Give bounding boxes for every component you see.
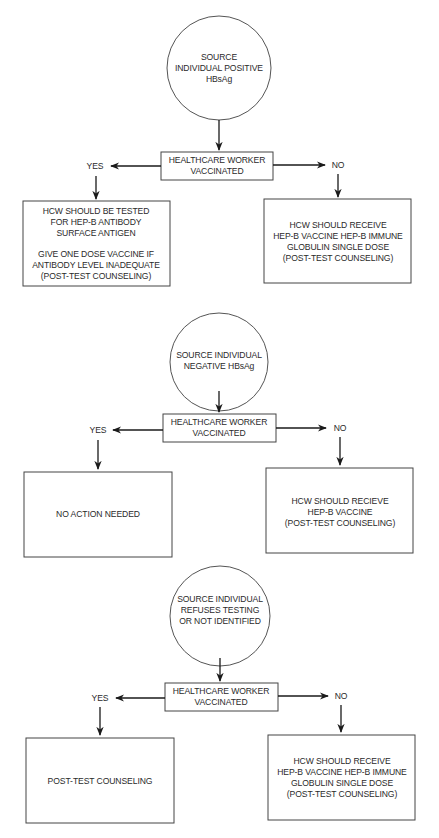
outcome-text-line: HCW SHOULD RECEIVE [289, 220, 386, 230]
flow-source-negative: SOURCE INDIVIDUAL NEGATIVE HBsAg HEALTHC… [24, 313, 413, 557]
outcome-text-line: ANTIBODY LEVEL INADEQUATE [32, 260, 160, 270]
outcome-text-line: POST-TEST COUNSELING [48, 776, 153, 786]
no-label: NO [334, 423, 347, 433]
yes-label: YES [90, 425, 107, 435]
flowchart-svg: SOURCE INDIVIDUAL POSITIVE HBsAg HEALTHC… [0, 0, 439, 838]
decision-text-line: HEALTHCARE WORKER [173, 686, 270, 696]
outcome-text-line: HEP-B VACCINE HEP-B IMMUNE [273, 231, 403, 241]
outcome-text-line: HCW SHOULD BE TESTED [43, 206, 150, 216]
outcome-text-line: GLOBULIN SINGLE DOSE [291, 778, 393, 788]
decision-text-line: HEALTHCARE WORKER [169, 155, 266, 165]
yes-label: YES [92, 693, 109, 703]
outcome-text-line: HCW SHOULD RECEIVE [293, 756, 390, 766]
outcome-text-line: (POST-TEST COUNSELING) [283, 253, 394, 263]
flow-source-unknown: SOURCE INDIVIDUAL REFUSES TESTING OR NOT… [26, 566, 415, 823]
source-text-line: INDIVIDUAL POSITIVE [175, 63, 263, 73]
decision-text-line: VACCINATED [194, 697, 247, 707]
outcome-text-line: HEP-B VACCINE HEP-B IMMUNE [277, 767, 407, 777]
source-text-line: NEGATIVE HBsAg [184, 361, 255, 371]
flow-source-positive: SOURCE INDIVIDUAL POSITIVE HBsAg HEALTHC… [23, 16, 411, 286]
outcome-text-line: HCW SHOULD RECIEVE [291, 496, 388, 506]
no-outcome-box [264, 199, 411, 283]
outcome-text-line: GIVE ONE DOSE VACCINE IF [38, 249, 154, 259]
no-label: NO [335, 691, 348, 701]
yes-label: YES [87, 161, 104, 171]
outcome-text-line: NO ACTION NEEDED [56, 509, 140, 519]
outcome-text-line: (POST-TEST COUNSELING) [41, 271, 152, 281]
decision-text-line: VACCINATED [190, 166, 243, 176]
decision-text-line: VACCINATED [192, 428, 245, 438]
source-text-line: SOURCE [201, 52, 238, 62]
decision-text-line: HEALTHCARE WORKER [171, 417, 268, 427]
source-text-line: HBsAg [206, 74, 233, 84]
outcome-text-line: GLOBULIN SINGLE DOSE [287, 242, 389, 252]
source-text-line: REFUSES TESTING [181, 605, 260, 615]
outcome-text-line: FOR HEP-B ANTIBODY [51, 217, 142, 227]
no-label: NO [332, 160, 345, 170]
source-text-line: OR NOT IDENTIFIED [179, 616, 261, 626]
source-text-line: SOURCE INDIVIDUAL [177, 594, 263, 604]
outcome-text-line: (POST-TEST COUNSELING) [287, 789, 398, 799]
outcome-text-line: (POST-TEST COUNSELING) [285, 518, 396, 528]
outcome-text-line: SURFACE ANTIGEN [56, 228, 135, 238]
outcome-text-line: HEP-B VACCINE [308, 507, 373, 517]
source-text-line: SOURCE INDIVIDUAL [176, 350, 262, 360]
flowchart-canvas: SOURCE INDIVIDUAL POSITIVE HBsAg HEALTHC… [0, 0, 439, 838]
